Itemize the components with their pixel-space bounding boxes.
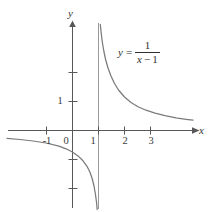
y-axis-label: y bbox=[68, 8, 73, 19]
x-tick-label-1: 1 bbox=[86, 136, 100, 147]
plot-canvas bbox=[0, 0, 211, 212]
fraction-denominator: x−1 bbox=[135, 53, 160, 65]
x-tick-label-neg1: -1 bbox=[40, 136, 54, 147]
x-tick-label-2: 2 bbox=[118, 136, 132, 147]
denominator-variable: x bbox=[137, 53, 142, 65]
x-tick-label-0: 0 bbox=[59, 136, 73, 147]
denominator-one: 1 bbox=[152, 53, 158, 65]
denominator-minus-sign: − bbox=[144, 53, 150, 65]
equation-fraction: 1 x−1 bbox=[135, 40, 160, 65]
fraction-numerator: 1 bbox=[142, 40, 154, 52]
y-axis-arrow bbox=[69, 21, 76, 28]
equation-equals-sign: = bbox=[126, 47, 132, 58]
x-tick-label-3: 3 bbox=[144, 136, 158, 147]
equation-lhs: y bbox=[118, 47, 123, 58]
curve-equation-label: y = 1 x−1 bbox=[118, 40, 160, 65]
y-tick-label-1: 1 bbox=[54, 96, 66, 107]
function-graph-figure: x y -1 0 1 2 3 1 y = 1 x−1 bbox=[0, 0, 211, 212]
curve-left-branch bbox=[7, 138, 97, 209]
x-axis-label: x bbox=[199, 125, 204, 136]
